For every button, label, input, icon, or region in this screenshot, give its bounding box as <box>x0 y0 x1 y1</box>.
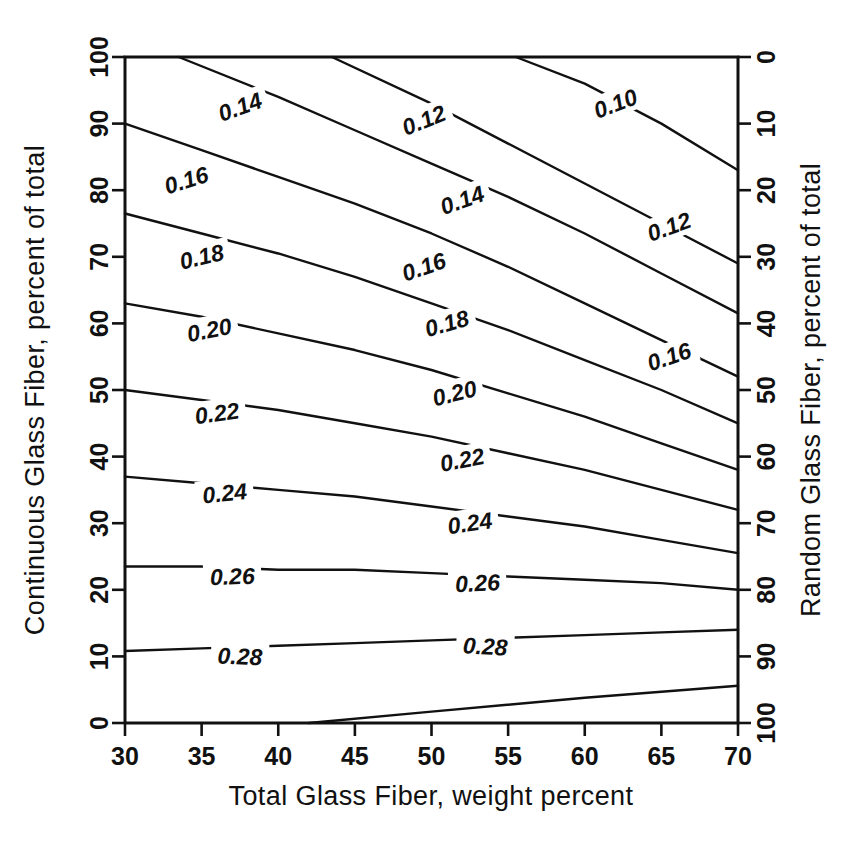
y2-tick-label: 10 <box>752 110 780 138</box>
contour-label: 0.28 <box>455 631 514 661</box>
x-tick-label: 45 <box>341 742 369 770</box>
x-axis-title: Total Glass Fiber, weight percent <box>229 781 634 811</box>
y2-tick-label: 50 <box>752 376 780 404</box>
contour-label: 0.26 <box>203 561 262 590</box>
contour-label: 0.28 <box>211 641 270 670</box>
y2-tick-label: 80 <box>752 576 780 604</box>
x-tick-label: 30 <box>111 742 139 770</box>
y2-tick-label: 90 <box>752 642 780 670</box>
y2-axis-title: Random Glass Fiber, percent of total <box>796 163 826 617</box>
y-tick-label: 0 <box>85 716 113 730</box>
x-tick-label: 55 <box>494 742 522 770</box>
y2-tick-label: 60 <box>752 443 780 471</box>
contour-label-text: 0.24 <box>201 478 248 509</box>
contour-label-text: 0.26 <box>454 569 500 597</box>
y-tick-label: 20 <box>85 576 113 604</box>
y2-tick-label: 20 <box>752 176 780 204</box>
x-tick-label: 60 <box>571 742 599 770</box>
x-axis-tick-labels: 303540455055606570 <box>111 742 752 770</box>
y-tick-label: 10 <box>85 642 113 670</box>
contour-label-text: 0.28 <box>217 643 263 671</box>
y-axis-title: Continuous Glass Fiber, percent of total <box>20 145 50 635</box>
y2-tick-label: 100 <box>752 702 780 744</box>
contour-plot-svg: 0.100.120.120.140.140.160.160.160.180.18… <box>0 0 862 847</box>
contour-label-text: 0.28 <box>462 632 508 660</box>
contour-label: 0.26 <box>448 568 507 598</box>
y-tick-label: 50 <box>85 376 113 404</box>
x-tick-label: 65 <box>647 742 675 770</box>
y-tick-label: 90 <box>85 110 113 138</box>
y-tick-label: 80 <box>85 176 113 204</box>
y2-tick-label: 30 <box>752 243 780 271</box>
y2-tick-label: 0 <box>752 50 780 64</box>
x-tick-label: 40 <box>264 742 292 770</box>
x-tick-label: 35 <box>188 742 216 770</box>
y-tick-label: 100 <box>85 36 113 78</box>
contour-plot-figure: 0.100.120.120.140.140.160.160.160.180.18… <box>0 0 862 847</box>
y2-tick-label: 40 <box>752 309 780 337</box>
y2-tick-label: 70 <box>752 509 780 537</box>
y-tick-label: 70 <box>85 243 113 271</box>
x-tick-label: 50 <box>418 742 446 770</box>
y-tick-label: 30 <box>85 509 113 537</box>
contour-label-text: 0.26 <box>209 563 255 591</box>
y-tick-label: 60 <box>85 309 113 337</box>
y-tick-label: 40 <box>85 443 113 471</box>
x-tick-label: 70 <box>724 742 752 770</box>
